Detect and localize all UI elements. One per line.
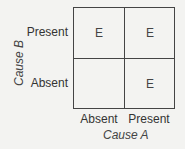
cell-babsent-aabsent [74,59,124,109]
x-axis-title: Cause A [103,128,149,142]
col-label-present: Present [123,112,175,126]
cell-babsent-apresent: E [125,59,175,109]
row-label-present: Present [18,25,68,39]
col-label-absent: Absent [73,112,125,126]
cell-bpresent-apresent: E [125,8,175,58]
cause-effect-grid: E E E [73,7,175,109]
row-label-absent: Absent [18,76,68,90]
cell-bpresent-aabsent: E [74,8,124,58]
